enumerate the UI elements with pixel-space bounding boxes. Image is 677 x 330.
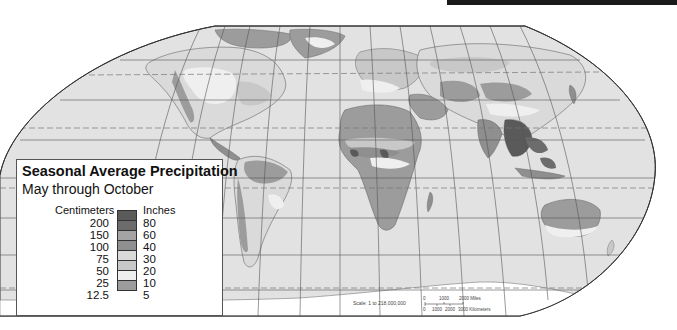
cm-label-3: 75 bbox=[96, 253, 109, 265]
in-label-2: 40 bbox=[143, 241, 156, 253]
in-label-0: 80 bbox=[143, 217, 156, 229]
scale-miles-1000: 1000 bbox=[439, 296, 449, 301]
cm-label-5: 25 bbox=[96, 277, 109, 289]
swatch-below bbox=[117, 280, 137, 291]
in-label-6: 5 bbox=[143, 289, 149, 301]
scale-miles-2000: 2000 Miles bbox=[459, 296, 481, 301]
cm-label-2: 100 bbox=[90, 241, 109, 253]
legend: Seasonal Average Precipitation May throu… bbox=[16, 159, 223, 316]
cm-label-4: 50 bbox=[96, 265, 109, 277]
scale-km-3000: 3000 Kilometers bbox=[458, 307, 491, 312]
in-label-1: 60 bbox=[143, 229, 156, 241]
cm-label-0: 200 bbox=[90, 217, 109, 229]
legend-in-header: Inches bbox=[143, 204, 175, 216]
in-label-3: 30 bbox=[143, 253, 156, 265]
legend-swatches bbox=[117, 211, 137, 291]
cm-label-6: 12.5 bbox=[87, 289, 109, 301]
in-label-4: 20 bbox=[143, 265, 156, 277]
scale-km-2000: 2000 bbox=[445, 307, 455, 312]
scale-miles-0: 0 bbox=[423, 296, 426, 301]
scale-km-0: 0 bbox=[423, 307, 426, 312]
scale-km-1000: 1000 bbox=[432, 307, 442, 312]
legend-title: Seasonal Average Precipitation bbox=[22, 163, 238, 179]
scale-ratio: Scale: 1 to 218,000,000 bbox=[353, 300, 406, 306]
cm-label-1: 150 bbox=[90, 229, 109, 241]
in-label-5: 10 bbox=[143, 277, 156, 289]
legend-subtitle: May through October bbox=[22, 181, 154, 197]
legend-cm-header: Centimeters bbox=[55, 204, 114, 216]
